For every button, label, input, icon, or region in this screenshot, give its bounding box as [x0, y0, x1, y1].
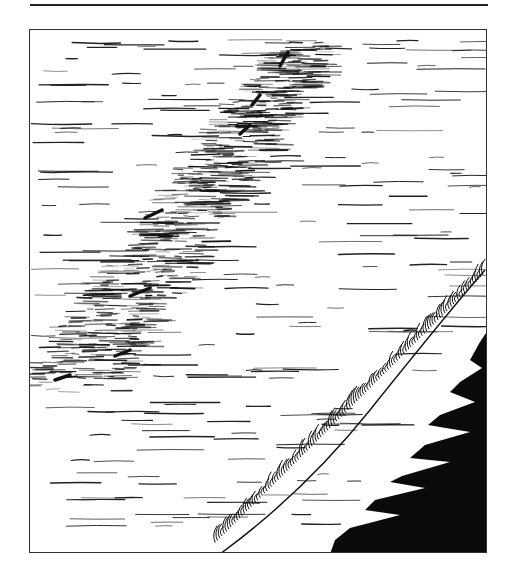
dark-shore	[330, 330, 487, 553]
illustration-frame	[29, 29, 487, 553]
water-shore-illustration	[30, 30, 487, 553]
top-rule	[30, 4, 488, 6]
